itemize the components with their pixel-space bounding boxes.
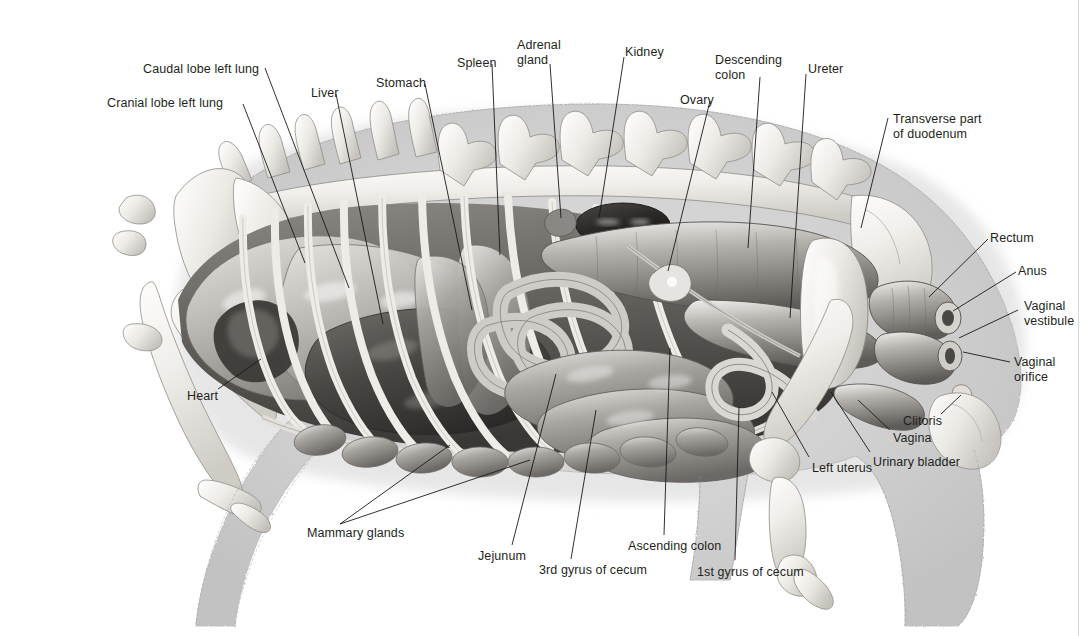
label-line: Anus — [1018, 264, 1047, 279]
label-vaginal-vestibule: Vaginalvestibule — [1024, 299, 1074, 328]
label-ovary: Ovary — [680, 93, 714, 108]
label-anus: Anus — [1018, 264, 1047, 279]
label-line: orifice — [1014, 370, 1055, 385]
label-adrenal-gland: Adrenalgland — [517, 38, 561, 67]
label-line: Ascending colon — [628, 539, 721, 554]
label-line: Liver — [311, 86, 339, 101]
label-line: Mammary glands — [307, 526, 404, 541]
label-vaginal-orifice: Vaginalorifice — [1014, 355, 1055, 384]
label-line: of duodenum — [893, 127, 982, 142]
page-edge-rule — [1078, 0, 1079, 636]
label-mammary-glands: Mammary glands — [307, 526, 404, 541]
label-line: Vagina — [893, 431, 932, 446]
label-ureter: Ureter — [808, 62, 843, 77]
label-line: Jejunum — [478, 549, 526, 564]
label-line: Vaginal — [1014, 355, 1055, 370]
label-transverse-part-of-duodenum: Transverse partof duodenum — [893, 112, 982, 141]
label-urinary-bladder: Urinary bladder — [873, 455, 960, 470]
label-line: 3rd gyrus of cecum — [539, 563, 647, 578]
label-line: vestibule — [1024, 314, 1074, 329]
label-clitoris: Clitoris — [903, 414, 942, 429]
label-line: Rectum — [990, 231, 1034, 246]
label-line: Caudal lobe left lung — [143, 62, 259, 77]
label-line: Kidney — [625, 45, 664, 60]
label-line: Descending — [715, 53, 782, 68]
label-line: Spleen — [457, 56, 497, 71]
label-descending-colon: Descendingcolon — [715, 53, 782, 82]
label-line: Ovary — [680, 93, 714, 108]
label-line: Cranial lobe left lung — [107, 96, 223, 111]
label-3rd-gyrus-of-cecum: 3rd gyrus of cecum — [539, 563, 647, 578]
label-line: Clitoris — [903, 414, 942, 429]
label-line: Urinary bladder — [873, 455, 960, 470]
label-line: Vaginal — [1024, 299, 1074, 314]
label-line: Ureter — [808, 62, 843, 77]
label-stomach: Stomach — [376, 76, 426, 91]
label-vagina: Vagina — [893, 431, 932, 446]
label-kidney: Kidney — [625, 45, 664, 60]
label-rectum: Rectum — [990, 231, 1034, 246]
label-line: Stomach — [376, 76, 426, 91]
label-spleen: Spleen — [457, 56, 497, 71]
label-line: Transverse part — [893, 112, 982, 127]
label-jejunum: Jejunum — [478, 549, 526, 564]
label-caudal-lobe-left-lung: Caudal lobe left lung — [143, 62, 259, 77]
label-line: Heart — [187, 389, 218, 404]
label-line: 1st gyrus of cecum — [697, 565, 804, 580]
label-ascending-colon: Ascending colon — [628, 539, 721, 554]
label-left-uterus: Left uterus — [812, 461, 872, 476]
label-line: colon — [715, 68, 782, 83]
label-line: Left uterus — [812, 461, 872, 476]
label-line: gland — [517, 53, 561, 68]
label-line: Adrenal — [517, 38, 561, 53]
label-cranial-lobe-left-lung: Cranial lobe left lung — [107, 96, 223, 111]
label-heart: Heart — [187, 389, 218, 404]
label-liver: Liver — [311, 86, 339, 101]
label-1st-gyrus-of-cecum: 1st gyrus of cecum — [697, 565, 804, 580]
anatomical-figure: Cranial lobe left lungCaudal lobe left l… — [0, 0, 1081, 636]
